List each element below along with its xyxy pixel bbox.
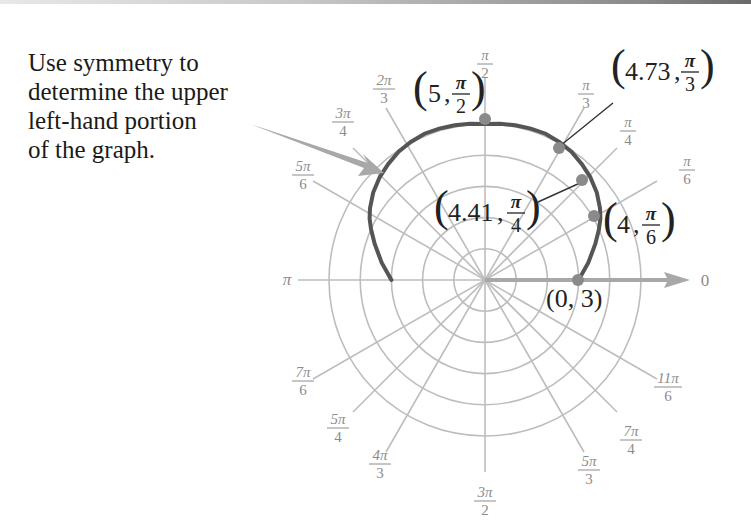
svg-text:5π: 5π [295,158,311,174]
angle-label-7pi-6: 7π 6 [292,364,314,398]
svg-text:5π: 5π [330,411,346,427]
angle-label-pi-6: π 6 [679,153,695,187]
svg-text:π: π [481,47,489,63]
svg-text:5π: 5π [581,453,597,469]
point-labels: ( 5 , π 2 ) ( 4.73 , π 3 ) ( 4.41 , π 4 … [413,41,715,313]
angle-label-5pi-6: 5π 6 [292,158,314,192]
svg-text:3: 3 [585,471,593,487]
svg-text:,: , [444,79,451,108]
svg-text:(: ( [413,63,428,112]
svg-text:6: 6 [683,171,691,187]
svg-text:4: 4 [511,214,521,236]
point-4-41-pi-4 [576,174,588,186]
symmetry-arrow-icon [250,124,384,176]
svg-text:3: 3 [380,90,388,106]
svg-text:2: 2 [481,502,489,518]
svg-text:2π: 2π [376,72,392,88]
svg-text:π: π [685,50,696,71]
svg-text:): ) [526,182,541,231]
svg-text:4: 4 [627,441,635,457]
svg-text:): ) [471,63,486,112]
label-4-pi-6: ( 4 , π 6 ) [603,194,676,248]
angle-label-4pi-3: 4π 3 [369,447,391,481]
svg-text:6: 6 [299,176,307,192]
svg-text:4: 4 [624,132,632,148]
svg-text:3π: 3π [476,484,493,500]
svg-text:(: ( [434,182,449,231]
svg-text:,: , [497,198,504,227]
svg-text:π: π [646,203,657,224]
angle-spokes [298,78,657,472]
svg-text:3π: 3π [334,105,351,121]
svg-text:11π: 11π [657,370,679,386]
svg-text:3: 3 [685,73,695,95]
svg-text:π: π [582,77,590,93]
label-0-3: (0, 3) [546,284,602,313]
point-4-73-pi-3 [553,142,565,154]
svg-text:,: , [674,57,681,86]
angle-label-5pi-4: 5π 4 [327,411,349,445]
point-5-pi-2 [479,113,491,125]
polar-graph: π 2 π 3 π 4 π 6 2π 3 3π 4 [0,0,751,525]
svg-text:3: 3 [582,95,590,111]
angle-label-3pi-2: 3π 2 [474,484,496,518]
angle-label-2pi-3: 2π 3 [373,72,395,106]
svg-text:3: 3 [376,465,384,481]
svg-text:5: 5 [428,79,441,108]
angle-labels: π 2 π 3 π 4 π 6 2π 3 3π 4 [283,47,710,518]
angle-label-pi: π [283,270,292,289]
point-4-pi-6 [588,210,600,222]
angle-label-pi-3: π 3 [578,77,594,111]
svg-text:6: 6 [299,382,307,398]
svg-text:(: ( [611,41,626,90]
svg-text:4: 4 [339,123,347,139]
svg-text:4: 4 [617,210,630,239]
angle-label-pi-4: π 4 [620,114,636,148]
svg-text:(: ( [603,194,618,243]
svg-text:π: π [456,72,467,93]
svg-text:7π: 7π [623,423,639,439]
svg-text:4.41: 4.41 [448,198,494,227]
svg-text:4.73: 4.73 [625,57,671,86]
angle-label-11pi-6: 11π 6 [654,370,682,404]
svg-text:6: 6 [664,388,672,404]
svg-text:4: 4 [334,429,342,445]
svg-text:π: π [511,191,522,212]
svg-text:π: π [683,153,691,169]
angle-label-7pi-4: 7π 4 [620,423,642,457]
svg-text:4π: 4π [372,447,388,463]
svg-text:π: π [624,114,632,130]
svg-text:7π: 7π [295,364,311,380]
angle-label-0: 0 [701,271,710,290]
svg-text:): ) [700,41,715,90]
svg-text:6: 6 [646,226,656,248]
svg-text:,: , [633,210,640,239]
label-5-pi-2: ( 5 , π 2 ) [413,63,486,117]
label-4-73-pi-3: ( 4.73 , π 3 ) [611,41,715,95]
svg-text:2: 2 [456,95,466,117]
angle-label-3pi-4: 3π 4 [332,105,354,139]
svg-text:): ) [661,194,676,243]
angle-label-5pi-3: 5π 3 [578,453,600,487]
